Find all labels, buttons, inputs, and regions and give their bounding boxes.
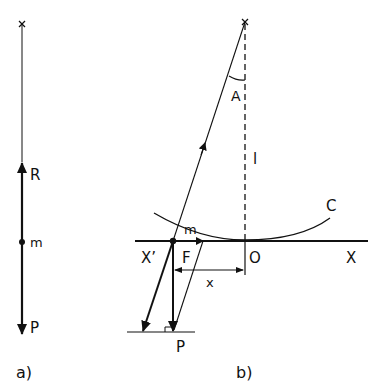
mass-dot [19, 239, 25, 245]
label-F: F [182, 249, 191, 267]
caption-b: b) [236, 363, 252, 382]
label-X-prime: X’ [141, 249, 156, 267]
panel-b: A l C X’ X O m F x P b) [127, 19, 368, 382]
label-A: A [231, 88, 241, 104]
caption-a: a) [16, 363, 32, 382]
right-angle-mark [165, 327, 171, 332]
label-m: m [30, 235, 43, 250]
string-direction-arrow [201, 143, 205, 155]
label-O: O [249, 249, 261, 267]
label-P: P [30, 319, 39, 337]
label-l: l [253, 150, 257, 168]
label-R: R [30, 166, 40, 184]
pendulum-diagram: R m P a) A l C X’ X O m [0, 0, 380, 389]
panel-a: R m P a) [16, 21, 43, 382]
label-X: X [346, 249, 356, 267]
label-C: C [326, 197, 336, 215]
angle-arc [229, 76, 245, 80]
label-P: P [176, 338, 185, 356]
inclined-string [173, 22, 245, 241]
label-m: m [184, 222, 197, 237]
label-x: x [206, 275, 214, 290]
